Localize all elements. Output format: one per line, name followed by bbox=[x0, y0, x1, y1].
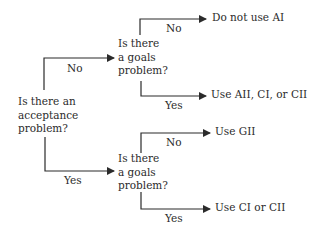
outcome-use-gii: Use GII bbox=[215, 125, 255, 139]
outcome-use-ci-cii: Use CI or CII bbox=[215, 201, 285, 215]
outcome-do-not-use-ai: Do not use AI bbox=[212, 11, 284, 25]
root-question: Is there an acceptance problem? bbox=[18, 95, 78, 136]
upper-goals-question: Is there a goals problem? bbox=[118, 37, 168, 78]
outcome-use-aii-ci-cii: Use AII, CI, or CII bbox=[211, 88, 307, 102]
edge-label-no: No bbox=[67, 62, 83, 76]
lower-goals-question: Is there a goals problem? bbox=[118, 152, 168, 193]
upper-yes-label: Yes bbox=[165, 99, 183, 113]
lower-yes-label: Yes bbox=[165, 212, 183, 226]
edge-label-yes: Yes bbox=[64, 174, 82, 188]
upper-no-label: No bbox=[166, 22, 182, 36]
lower-no-label: No bbox=[166, 136, 182, 150]
